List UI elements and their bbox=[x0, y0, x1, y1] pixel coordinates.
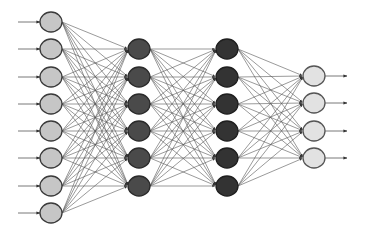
edge bbox=[238, 49, 302, 75]
hidden-layer-2-node bbox=[216, 67, 238, 87]
output-layer-node bbox=[303, 66, 325, 86]
edge bbox=[238, 76, 302, 77]
hidden-layer-2-node bbox=[216, 148, 238, 168]
input-layer-node bbox=[40, 148, 62, 168]
neural-network-diagram bbox=[0, 0, 365, 235]
edge bbox=[150, 49, 216, 157]
edge bbox=[150, 132, 215, 186]
output-layer-node bbox=[303, 93, 325, 113]
input-layer-node bbox=[40, 39, 62, 59]
hidden-layer-1-node bbox=[128, 148, 150, 168]
hidden-layer-1-node bbox=[128, 67, 150, 87]
hidden-layer-2-node bbox=[216, 176, 238, 196]
input-layer-node bbox=[40, 94, 62, 114]
edge bbox=[62, 22, 127, 48]
hidden-layer-1-node bbox=[128, 176, 150, 196]
edge bbox=[62, 49, 128, 157]
edge bbox=[238, 159, 302, 186]
input-layer-node bbox=[40, 176, 62, 196]
edge bbox=[150, 104, 215, 157]
output-layer-node bbox=[303, 121, 325, 141]
edge bbox=[62, 50, 127, 77]
connection-edges bbox=[62, 22, 303, 213]
input-layer-node bbox=[40, 67, 62, 87]
edge bbox=[150, 78, 216, 186]
edge bbox=[238, 49, 303, 157]
edge bbox=[62, 187, 127, 213]
hidden-layer-1-node bbox=[128, 94, 150, 114]
hidden-layer-1 bbox=[128, 39, 150, 196]
edge bbox=[150, 105, 215, 158]
hidden-layer-2-node bbox=[216, 39, 238, 59]
hidden-layer-2-node bbox=[216, 94, 238, 114]
input-layer-node bbox=[40, 203, 62, 223]
edge bbox=[150, 158, 215, 185]
edge bbox=[62, 104, 127, 157]
output-layer bbox=[303, 66, 325, 168]
edge bbox=[150, 77, 215, 130]
hidden-layer-1-node bbox=[128, 39, 150, 59]
hidden-layer-2-node bbox=[216, 121, 238, 141]
edge bbox=[62, 105, 127, 158]
input-layer-node bbox=[40, 121, 62, 141]
edge bbox=[62, 158, 127, 185]
hidden-layer-2 bbox=[216, 39, 238, 196]
edge bbox=[238, 77, 303, 186]
edge bbox=[150, 50, 215, 77]
input-layer bbox=[40, 12, 62, 223]
edge bbox=[62, 50, 128, 213]
hidden-layer-1-node bbox=[128, 121, 150, 141]
edge bbox=[238, 132, 302, 186]
input-layer-node bbox=[40, 12, 62, 32]
output-layer-node bbox=[303, 148, 325, 168]
